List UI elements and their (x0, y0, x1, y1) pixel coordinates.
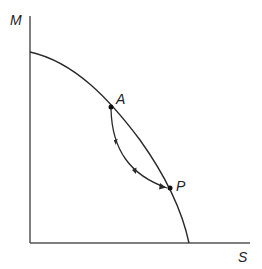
point-p (168, 186, 173, 191)
diagram-canvas: M S A P (0, 0, 262, 269)
x-axis-label: S (238, 249, 248, 265)
point-p-label: P (176, 178, 186, 194)
point-a-label: A (115, 91, 125, 107)
point-a (109, 105, 114, 110)
adjustment-path (111, 109, 167, 188)
arrow-head-3 (159, 183, 166, 190)
y-axis-label: M (10, 12, 22, 28)
frontier-curve (30, 52, 189, 243)
